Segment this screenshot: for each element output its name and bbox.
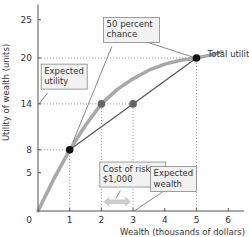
high-wealth-point [193,54,201,62]
x-tick-label: 1 [67,215,73,225]
y-tick-label: 5 [26,168,32,178]
tick-labels: 12345658142025 [21,15,232,225]
x-tick-label: 3 [130,215,136,225]
annotations: Total utility50 percentchanceExpecteduti… [39,17,249,210]
low-wealth-point [66,146,74,154]
expected-wealth-point [129,100,137,108]
x-tick-label: 4 [162,215,168,225]
y-tick-label: 14 [21,99,33,109]
label-expected-utility: Expectedutility [39,64,87,104]
x-tick-label: 5 [194,215,200,225]
annotation-text: Cost of risk [103,164,151,174]
double-arrow-icon [103,197,131,207]
y-axis-title: Utility of wealth (units) [1,44,11,141]
annotation-pointer [144,41,193,57]
annotation-text: 50 percent [107,19,154,29]
x-tick-label: 6 [225,215,231,225]
annotation-text: Expected [154,168,194,178]
annotation-pointer [39,93,48,104]
cost-of-risk-arrow [103,197,131,207]
origin-label: 0 [26,215,32,225]
y-tick-label: 20 [21,53,33,63]
annotation-text: Total utility [207,49,249,59]
y-tick-label: 8 [26,145,32,155]
certain-equivalent-point [98,100,106,108]
x-axis-title: Wealth (thousands of dollars) [120,227,245,237]
annotation-text: Expected [44,66,84,76]
expected-utility-chart: 12345658142025 0 Wealth (thousands of do… [0,0,249,237]
annotation-text: chance [107,29,138,39]
annotation-pointer [73,47,112,143]
annotation-text: $1,000 [103,174,133,184]
label-total-utility: Total utility [207,49,249,59]
annotation-pointer [116,190,121,198]
annotation-pointer [135,190,165,210]
y-tick-label: 25 [21,15,32,25]
annotation-text: utility [44,76,68,86]
annotation-text: wealth [154,179,182,189]
x-tick-label: 2 [99,215,105,225]
